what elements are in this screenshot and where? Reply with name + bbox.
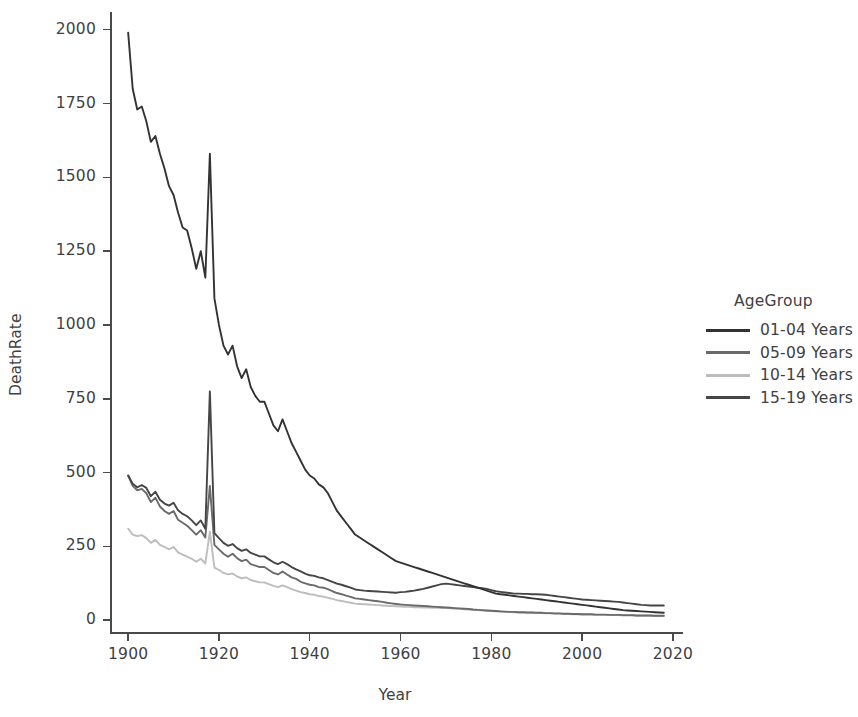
x-tick-mark bbox=[400, 633, 402, 641]
x-tick-label: 1960 bbox=[361, 645, 441, 663]
x-tick-mark bbox=[309, 633, 311, 641]
y-tick-label: 750 bbox=[0, 389, 96, 407]
legend-entry-label: 10-14 Years bbox=[760, 366, 853, 384]
y-tick-label: 1750 bbox=[0, 94, 96, 112]
legend-color-swatch bbox=[706, 351, 750, 354]
x-axis-line bbox=[110, 632, 683, 634]
legend-entry-label: 15-19 Years bbox=[760, 389, 853, 407]
legend-entry[interactable]: 10-14 Years bbox=[706, 364, 856, 387]
x-tick-label: 1980 bbox=[451, 645, 531, 663]
x-tick-label: 2000 bbox=[542, 645, 622, 663]
plot-area bbox=[110, 12, 682, 632]
line-chart-svg bbox=[110, 12, 682, 632]
legend-color-swatch bbox=[706, 329, 750, 332]
x-tick-label: 1940 bbox=[270, 645, 350, 663]
legend-entry-label: 01-04 Years bbox=[760, 321, 853, 339]
legend-entry[interactable]: 05-09 Years bbox=[706, 342, 856, 365]
legend-entry[interactable]: 15-19 Years bbox=[706, 387, 856, 410]
x-tick-mark bbox=[491, 633, 493, 641]
legend-color-swatch bbox=[706, 396, 750, 399]
legend-entry-label: 05-09 Years bbox=[760, 344, 853, 362]
x-tick-mark bbox=[672, 633, 674, 641]
x-tick-label: 2020 bbox=[633, 645, 713, 663]
x-axis-title: Year bbox=[0, 686, 790, 704]
y-tick-label: 0 bbox=[0, 610, 96, 628]
chart-legend: AgeGroup 01-04 Years05-09 Years10-14 Yea… bbox=[706, 292, 856, 409]
legend-title: AgeGroup bbox=[734, 292, 856, 310]
x-tick-label: 1900 bbox=[88, 645, 168, 663]
y-tick-label: 1500 bbox=[0, 167, 96, 185]
y-tick-label: 1000 bbox=[0, 315, 96, 333]
y-tick-label: 500 bbox=[0, 463, 96, 481]
legend-color-swatch bbox=[706, 374, 750, 377]
y-tick-label: 1250 bbox=[0, 241, 96, 259]
x-tick-mark bbox=[218, 633, 220, 641]
y-tick-label: 250 bbox=[0, 536, 96, 554]
series-line bbox=[128, 33, 664, 613]
y-tick-label: 2000 bbox=[0, 20, 96, 38]
x-tick-mark bbox=[581, 633, 583, 641]
series-line bbox=[128, 529, 664, 616]
legend-entries: 01-04 Years05-09 Years10-14 Years15-19 Y… bbox=[706, 319, 856, 409]
legend-entry[interactable]: 01-04 Years bbox=[706, 319, 856, 342]
x-tick-mark bbox=[127, 633, 129, 641]
chart-figure: DeathRate 200017501500125010007505002500… bbox=[0, 0, 858, 717]
x-tick-label: 1920 bbox=[179, 645, 259, 663]
